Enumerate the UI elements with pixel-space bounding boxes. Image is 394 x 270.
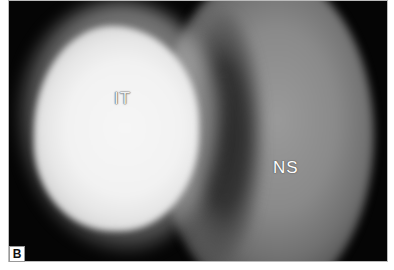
annotation-ns: NS: [273, 158, 299, 178]
endoscopic-image: IT NS: [8, 0, 388, 262]
inferior-turbinate-region: [34, 26, 199, 231]
annotation-it: IT: [114, 89, 131, 109]
panel-label: B: [9, 246, 25, 262]
